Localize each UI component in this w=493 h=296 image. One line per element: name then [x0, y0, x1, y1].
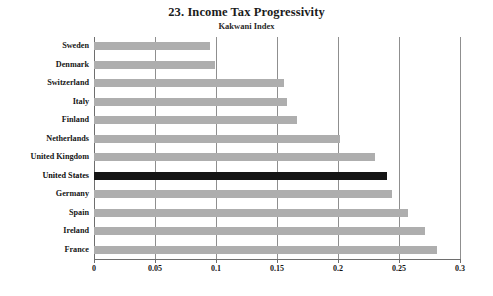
y-label-netherlands: Netherlands [0, 134, 89, 143]
bar-united-kingdom [94, 153, 375, 161]
x-tick-0 [94, 259, 95, 263]
y-label-united-kingdom: United Kingdom [0, 152, 89, 161]
chart-container: 23. Income Tax Progressivity Kakwani Ind… [0, 0, 493, 296]
x-tick-label-0.15: 0.15 [257, 264, 297, 273]
y-label-finland: Finland [0, 115, 89, 124]
bar-sweden [94, 42, 210, 50]
y-label-sweden: Sweden [0, 41, 89, 50]
x-tick-label-0: 0 [74, 264, 114, 273]
x-tick-0.05 [155, 259, 156, 263]
y-label-denmark: Denmark [0, 60, 89, 69]
bar-united-states [94, 172, 387, 180]
y-label-ireland: Ireland [0, 226, 89, 235]
y-label-germany: Germany [0, 189, 89, 198]
x-tick-0.25 [399, 259, 400, 263]
bar-france [94, 246, 437, 254]
y-label-france: France [0, 245, 89, 254]
bar-netherlands [94, 135, 340, 143]
y-label-spain: Spain [0, 208, 89, 217]
y-label-italy: Italy [0, 97, 89, 106]
bar-denmark [94, 61, 215, 69]
x-tick-0.1 [216, 259, 217, 263]
x-tick-label-0.1: 0.1 [196, 264, 236, 273]
chart-title: 23. Income Tax Progressivity [0, 5, 493, 20]
x-tick-0.15 [277, 259, 278, 263]
x-tick-0.3 [460, 259, 461, 263]
bar-finland [94, 116, 297, 124]
x-tick-0.2 [338, 259, 339, 263]
x-tick-label-0.3: 0.3 [440, 264, 480, 273]
x-tick-label-0.25: 0.25 [379, 264, 419, 273]
y-label-united-states: United States [0, 171, 89, 180]
chart-subtitle: Kakwani Index [0, 21, 493, 31]
x-tick-label-0.05: 0.05 [135, 264, 175, 273]
bar-ireland [94, 227, 425, 235]
y-label-switzerland: Switzerland [0, 78, 89, 87]
bar-switzerland [94, 79, 284, 87]
bar-germany [94, 190, 392, 198]
bar-italy [94, 98, 287, 106]
x-tick-label-0.2: 0.2 [318, 264, 358, 273]
bar-spain [94, 209, 408, 217]
